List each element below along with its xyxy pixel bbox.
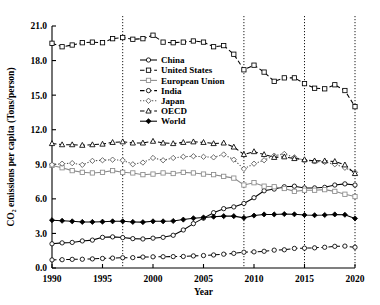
series-marker-china (191, 221, 195, 225)
series-marker-european-union (191, 171, 195, 175)
legend-label-india: India (161, 86, 182, 96)
series-marker-india (151, 255, 155, 259)
series-marker-india (292, 246, 296, 250)
x-tick-label-2015: 2015 (295, 274, 314, 284)
series-marker-united-states (201, 40, 205, 44)
series-marker-china (80, 239, 84, 243)
y-tick-label-15.0: 15.0 (30, 91, 47, 101)
series-marker-china (60, 241, 64, 245)
series-marker-india (333, 244, 337, 248)
y-tick-label-3.0: 3.0 (35, 229, 47, 239)
x-tick-label-2005: 2005 (194, 274, 213, 284)
series-marker-united-states (80, 41, 84, 45)
legend-marker-european-union (146, 78, 150, 82)
series-marker-india (161, 255, 165, 259)
series-marker-european-union (141, 173, 145, 177)
y-tick-label-18.0: 18.0 (30, 56, 47, 66)
series-marker-china (171, 233, 175, 237)
series-marker-china (70, 240, 74, 244)
series-marker-european-union (121, 170, 125, 174)
series-marker-india (141, 255, 145, 259)
series-marker-united-states (242, 68, 246, 72)
series-marker-india (222, 252, 226, 256)
series-marker-united-states (302, 81, 306, 85)
series-marker-india (50, 258, 54, 262)
legend-label-united-states: United States (161, 65, 213, 75)
series-marker-china (90, 238, 94, 242)
y-tick-label-12.0: 12.0 (30, 125, 47, 135)
series-marker-european-union (353, 194, 357, 198)
legend-marker-china (146, 58, 150, 62)
series-marker-united-states (211, 45, 215, 49)
series-marker-european-union (323, 187, 327, 191)
series-marker-china (141, 237, 145, 241)
series-marker-india (201, 253, 205, 257)
legend-marker-united-states (146, 68, 150, 72)
series-marker-india (110, 256, 114, 260)
series-marker-european-union (131, 171, 135, 175)
series-marker-india (302, 246, 306, 250)
series-marker-european-union (252, 181, 256, 185)
series-marker-india (90, 257, 94, 261)
series-marker-united-states (151, 33, 155, 37)
series-marker-china (50, 242, 54, 246)
series-marker-european-union (100, 170, 104, 174)
series-marker-china (353, 183, 357, 187)
legend-marker-india (146, 88, 150, 92)
series-marker-united-states (161, 40, 165, 44)
series-marker-india (70, 257, 74, 261)
series-marker-european-union (90, 171, 94, 175)
y-axis-title: CO₂ emissions per capita (Tons/person) (6, 67, 17, 226)
series-marker-china (242, 201, 246, 205)
series-marker-united-states (353, 105, 357, 109)
series-marker-european-union (302, 188, 306, 192)
series-marker-china (131, 236, 135, 240)
series-marker-united-states (121, 35, 125, 39)
co2-emissions-per-capita-chart: 0.03.06.09.012.015.018.021.0199019952000… (0, 0, 380, 305)
series-marker-european-union (262, 184, 266, 188)
x-tick-label-1995: 1995 (93, 274, 112, 284)
series-marker-united-states (222, 43, 226, 47)
series-marker-india (323, 245, 327, 249)
series-marker-united-states (50, 41, 54, 45)
series-marker-india (211, 253, 215, 257)
series-marker-european-union (201, 172, 205, 176)
x-tick-label-1990: 1990 (43, 274, 62, 284)
series-marker-china (252, 196, 256, 200)
series-marker-united-states (262, 70, 266, 74)
legend-label-oecd: OECD (161, 106, 188, 116)
series-marker-united-states (343, 88, 347, 92)
series-marker-united-states (252, 63, 256, 67)
series-marker-european-union (282, 186, 286, 190)
series-marker-china (222, 207, 226, 211)
series-marker-united-states (333, 83, 337, 87)
series-marker-india (191, 254, 195, 258)
series-marker-india (242, 250, 246, 254)
series-marker-china (151, 236, 155, 240)
series-marker-india (121, 256, 125, 260)
x-tick-label-2020: 2020 (346, 274, 365, 284)
series-marker-european-union (232, 176, 236, 180)
series-marker-european-union (272, 185, 276, 189)
series-marker-european-union (171, 171, 175, 175)
legend-label-world: World (161, 116, 186, 126)
series-marker-european-union (110, 168, 114, 172)
y-tick-label-0.0: 0.0 (35, 263, 47, 273)
series-marker-india (282, 248, 286, 252)
series-marker-united-states (282, 76, 286, 80)
series-marker-india (232, 251, 236, 255)
chart-canvas: 0.03.06.09.012.015.018.021.0199019952000… (0, 0, 380, 305)
y-tick-label-21.0: 21.0 (30, 21, 47, 31)
series-marker-india (252, 250, 256, 254)
series-marker-china (181, 228, 185, 232)
series-marker-china (232, 205, 236, 209)
series-marker-united-states (110, 37, 114, 41)
series-marker-european-union (70, 168, 74, 172)
series-marker-united-states (171, 41, 175, 45)
series-marker-united-states (141, 37, 145, 41)
series-marker-european-union (181, 170, 185, 174)
series-marker-india (343, 244, 347, 248)
series-marker-china (343, 182, 347, 186)
series-marker-india (80, 257, 84, 261)
series-marker-china (161, 235, 165, 239)
